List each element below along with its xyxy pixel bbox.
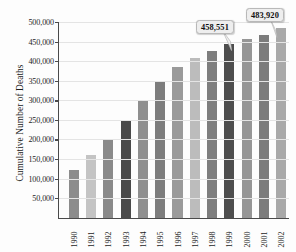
bar-1993 <box>121 121 131 218</box>
bar-1998 <box>207 51 217 218</box>
y-axis-tick-label: 500,000 <box>12 18 54 27</box>
plot-area <box>58 16 289 219</box>
x-axis-tick-label-2002: 2002 <box>277 225 286 252</box>
x-axis-tick-label-1997: 1997 <box>190 225 199 252</box>
y-axis-tick-mark <box>55 61 59 62</box>
bar-2001 <box>259 35 269 217</box>
y-axis-tick-label: 300,000 <box>12 96 54 105</box>
x-axis-tick-label-1991: 1991 <box>86 225 95 252</box>
x-axis-tick-label-1998: 1998 <box>208 225 217 252</box>
gridline <box>59 81 289 82</box>
y-axis-tick-label: 150,000 <box>12 155 54 164</box>
gridline <box>59 139 289 140</box>
x-axis-tick-label-1993: 1993 <box>121 225 130 252</box>
y-axis-tick-mark <box>55 179 59 180</box>
y-axis-tick-mark <box>55 139 59 140</box>
y-axis-tick-mark <box>55 42 59 43</box>
bar-1991 <box>86 155 96 218</box>
y-axis-tick-labels: 50,000100,000150,000200,000250,000300,00… <box>8 0 54 252</box>
gridline <box>59 120 289 121</box>
data-callout-1999: 458,551 <box>196 20 234 34</box>
bar-1999 <box>224 44 234 217</box>
y-axis-tick-label: 250,000 <box>12 115 54 124</box>
bar-series <box>58 16 289 219</box>
bar-2000 <box>242 39 252 218</box>
gridline <box>59 159 289 160</box>
y-axis-tick-label: 450,000 <box>12 37 54 46</box>
y-axis-tick-label: 100,000 <box>12 174 54 183</box>
y-axis-tick-label: 50,000 <box>12 194 54 203</box>
x-axis-tick-label-1995: 1995 <box>156 225 165 252</box>
bar-1996 <box>172 67 182 218</box>
gridline <box>59 42 289 43</box>
y-axis-tick-mark <box>55 81 59 82</box>
gridline <box>59 198 289 199</box>
gridline <box>59 100 289 101</box>
gridline <box>59 179 289 180</box>
x-axis-tick-label-2000: 2000 <box>242 225 251 252</box>
data-callout-2002: 483,920 <box>246 8 284 22</box>
x-axis-tick-label-1996: 1996 <box>173 225 182 252</box>
y-axis-tick-mark <box>55 120 59 121</box>
bar-1990 <box>69 170 79 218</box>
y-axis-tick-mark <box>55 198 59 199</box>
y-axis-tick-label: 400,000 <box>12 57 54 66</box>
y-axis-tick-label: 350,000 <box>12 76 54 85</box>
gridline <box>59 22 289 23</box>
bar-chart: Cumulative Number of Deaths 50,000100,00… <box>0 0 296 252</box>
bar-2002 <box>276 28 286 218</box>
x-axis-tick-label-1990: 1990 <box>69 225 78 252</box>
y-axis-tick-mark <box>55 159 59 160</box>
gridline <box>59 61 289 62</box>
x-axis-tick-label-1994: 1994 <box>138 225 147 252</box>
y-axis-tick-mark <box>55 100 59 101</box>
x-axis-tick-label-2001: 2001 <box>260 225 269 252</box>
y-axis-tick-label: 200,000 <box>12 135 54 144</box>
x-axis-tick-label-1992: 1992 <box>104 225 113 252</box>
y-axis-tick-mark <box>55 22 59 23</box>
x-axis-tick-label-1999: 1999 <box>225 225 234 252</box>
x-axis-tick-labels: 1990199119921993199419951996199719981999… <box>58 219 289 252</box>
